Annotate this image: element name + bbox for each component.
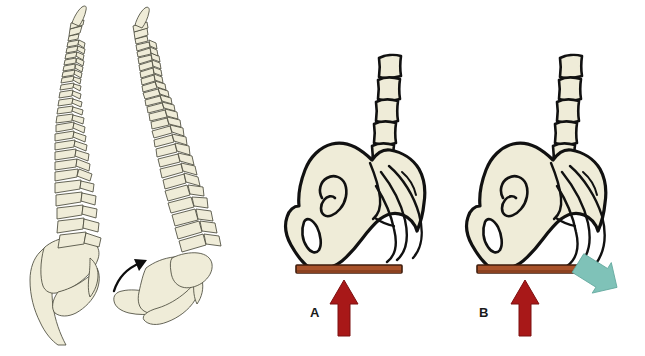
vertebra-l3-a — [376, 100, 398, 123]
vertebra-l2-b — [559, 78, 581, 101]
ground-reaction-force-arrow-a[interactable] — [330, 280, 358, 336]
spine-tilted — [114, 7, 221, 324]
pelvis-b-illustration — [460, 0, 645, 356]
vertebra-l1-b — [560, 55, 582, 78]
lateral-spine-comparison-panel — [0, 0, 290, 356]
support-platform-b — [477, 265, 581, 273]
lumbar-vertebrae-neutral — [55, 180, 101, 248]
spine-neutral — [30, 6, 101, 345]
vertebra-l4-b — [555, 122, 577, 145]
innominate-bone-b — [467, 143, 606, 269]
lumbar-vertebrae-tilted — [165, 185, 221, 252]
pelvis-outline-b — [467, 143, 606, 269]
pelvis-panel-b — [460, 0, 645, 356]
spine-illustration — [0, 0, 290, 356]
pelvis-a-illustration — [280, 0, 460, 356]
vertebra-l4-a — [374, 122, 396, 145]
panel-label-b: B — [479, 306, 489, 319]
sacral-base-tilted — [170, 253, 212, 288]
cervical-vertebrae-tilted — [135, 36, 163, 85]
odontoid-neutral — [72, 6, 86, 26]
vertebra-l3-b — [557, 100, 579, 123]
thoracic-vertebrae-neutral — [55, 76, 92, 181]
thoracic-vertebrae-tilted — [142, 81, 200, 189]
ground-reaction-force-arrow-b[interactable] — [511, 280, 539, 336]
vertebra-l2-a — [378, 78, 400, 101]
support-platform-a — [296, 265, 402, 273]
vertebra-l1-a — [379, 55, 401, 78]
pelvis-panel-a — [280, 0, 460, 356]
posterior-rotation-arrow-b[interactable] — [568, 248, 626, 303]
anatomical-figure: A B — [0, 0, 645, 356]
panel-label-a: A — [310, 306, 320, 319]
cervical-vertebrae-neutral — [62, 34, 85, 78]
